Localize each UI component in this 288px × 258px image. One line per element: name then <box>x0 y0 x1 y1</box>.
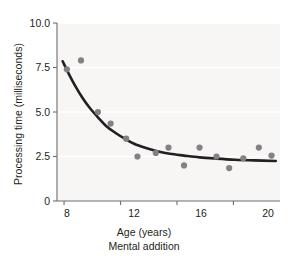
chart-figure: 10.0 7.5 5.0 2.5 0 8 12 16 20 Processing… <box>0 0 288 258</box>
data-point <box>256 145 262 151</box>
data-point <box>123 136 129 142</box>
data-point <box>240 155 246 161</box>
data-point <box>64 66 70 72</box>
data-point <box>134 153 140 159</box>
data-point <box>108 120 114 126</box>
data-point <box>226 165 232 171</box>
data-point <box>213 153 219 159</box>
data-point <box>165 145 171 151</box>
data-point <box>153 150 159 156</box>
scatter-plot-canvas <box>0 0 288 258</box>
x-axis-title: Age (years) <box>0 226 288 238</box>
data-point <box>268 153 274 159</box>
y-axis-ticks <box>53 23 57 201</box>
x-tick-label-20: 20 <box>253 207 283 219</box>
chart-caption: Mental addition <box>0 240 288 252</box>
x-tick-label-8: 8 <box>52 207 82 219</box>
y-axis-title: Processing time (milliseconds) <box>12 34 24 194</box>
x-tick-label-12: 12 <box>119 207 149 219</box>
data-point <box>196 145 202 151</box>
y-tick-label-10: 10.0 <box>6 17 50 29</box>
y-tick-label-0: 0 <box>6 195 50 207</box>
data-point <box>95 109 101 115</box>
x-tick-label-16: 16 <box>186 207 216 219</box>
data-point <box>78 57 84 63</box>
x-axis-ticks <box>64 201 233 205</box>
data-point <box>181 162 187 168</box>
